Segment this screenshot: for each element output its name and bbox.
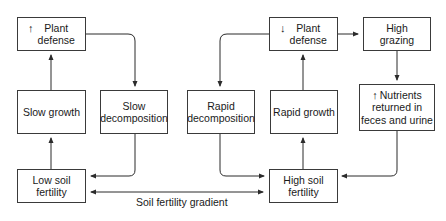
node-rapid-decomposition: Rapid decomposition [187,90,255,134]
node-slow-decomposition: Slow decomposition [100,90,168,134]
edge-plantdef-to-slowdecomp [86,34,135,86]
node-label: Slow growth [23,106,80,119]
node-label-line: Slow [100,100,168,113]
node-plant-defense-decreased: ↓ Plant defense [269,17,338,51]
node-rapid-growth: Rapid growth [270,90,338,134]
node-label-line: Nutrients [380,89,422,102]
up-arrow-icon: ↑ [372,89,378,101]
node-label-line: Plant [290,22,327,35]
gradient-label: Soil fertility gradient [136,196,228,208]
node-label-line: defense [290,34,327,47]
node-label-line: returned in [361,101,433,114]
edge-rapiddecomp-to-highfert [220,133,264,176]
down-arrow-icon: ↓ [280,22,286,34]
node-slow-growth: Slow growth [17,90,86,134]
node-low-soil-fertility: Low soil fertility [17,169,86,203]
node-label-line: defense [38,34,75,47]
node-plant-defense-increased: ↑ Plant defense [17,17,86,51]
node-nutrients-returned: ↑ Nutrients returned in feces and urine [359,84,435,131]
node-label-line: decomposition [100,112,168,125]
edge-plantdef-to-rapiddecomp [220,34,269,86]
node-label-line: grazing [380,34,414,47]
edge-slowdecomp-to-lowfert [91,133,135,176]
node-label-line: High soil [283,174,323,187]
node-label-line: fertility [33,186,71,199]
node-label-line: Low soil [33,174,71,187]
node-high-grazing: High grazing [363,17,431,51]
up-arrow-icon: ↑ [28,22,34,34]
node-label: Rapid growth [273,106,335,119]
node-label-line: decomposition [187,112,255,125]
node-label-line: Plant [38,22,75,35]
node-label-line: Rapid [187,100,255,113]
edge-nutrients-to-highfert [342,130,397,176]
node-label-line: feces and urine [361,114,433,127]
node-high-soil-fertility: High soil fertility [269,169,338,203]
node-label-line: High [380,22,414,35]
node-label-line: fertility [283,186,323,199]
